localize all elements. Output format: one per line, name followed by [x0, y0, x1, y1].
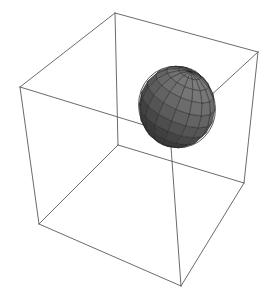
figure-root: [0, 0, 271, 304]
mesh-facet: [192, 90, 202, 104]
plot-background: [0, 0, 271, 304]
mesh-facet: [201, 102, 210, 116]
plot-canvas: [0, 0, 271, 304]
